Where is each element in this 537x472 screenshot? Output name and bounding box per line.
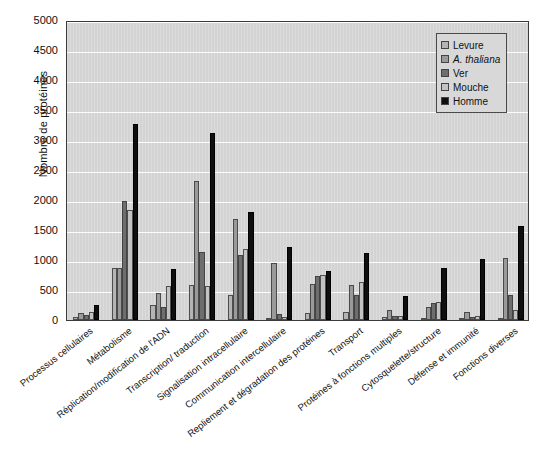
x-tick-label-text: Communication intercellulaire — [183, 325, 288, 410]
chart-figure: Nombre de protéines 05001000150020002500… — [0, 0, 537, 472]
y-tick-label: 500 — [0, 284, 58, 296]
legend-item-label: A. thaliana — [453, 54, 500, 65]
x-tick-label-text: Signalisation intracellulaire — [154, 325, 249, 403]
x-tick-label-text: Transcription/ traduction — [124, 325, 211, 396]
y-tick-label: 2000 — [0, 194, 58, 206]
bar — [364, 253, 369, 320]
legend-item-label: Homme — [453, 96, 488, 107]
y-tick-label: 1500 — [0, 224, 58, 236]
y-tick-label: 2500 — [0, 164, 58, 176]
bar — [171, 269, 176, 320]
bar — [326, 271, 331, 320]
bar — [287, 247, 292, 321]
legend-item-label: Levure — [453, 40, 484, 51]
y-axis-tick-labels: 0500100015002000250030003500400045005000 — [0, 0, 62, 472]
y-tick-label: 4000 — [0, 74, 58, 86]
y-tick-label: 3500 — [0, 104, 58, 116]
x-tick-label-text: Protéines à fonctions multiples — [295, 325, 403, 413]
legend-item: Mouche — [441, 80, 500, 94]
legend-item: Levure — [441, 38, 500, 52]
bar-cluster — [183, 22, 222, 320]
y-tick-label: 3000 — [0, 134, 58, 146]
legend-item: A. thaliana — [441, 52, 500, 66]
legend-swatch-icon — [441, 69, 449, 77]
chart-legend: LevureA. thalianaVerMoucheHomme — [436, 33, 507, 113]
legend-swatch-icon — [441, 41, 449, 49]
bar-cluster — [144, 22, 183, 320]
bar — [441, 268, 446, 321]
bar-cluster — [67, 22, 106, 320]
bar-cluster — [260, 22, 299, 320]
legend-swatch-icon — [441, 97, 449, 105]
y-tick-label: 0 — [0, 314, 58, 326]
bar-cluster — [337, 22, 376, 320]
bar-cluster — [106, 22, 145, 320]
y-tick-label: 4500 — [0, 44, 58, 56]
x-tick-label-text: Fonctions diverses — [450, 325, 519, 382]
legend-swatch-icon — [441, 55, 449, 63]
legend-item-label: Ver — [453, 68, 468, 79]
bar — [133, 124, 138, 320]
x-tick-label-text: Repliement et dégradation des protéines — [185, 325, 327, 439]
legend-item-label: Mouche — [453, 82, 489, 93]
bar — [403, 296, 408, 320]
legend-item: Ver — [441, 66, 500, 80]
bar — [271, 263, 276, 320]
bar — [518, 226, 523, 320]
legend-item: Homme — [441, 94, 500, 108]
x-tick-label-text: Réplication/modification de l'ADN — [55, 325, 172, 420]
x-tick-label-text: Cytosquelette/structure — [359, 325, 443, 394]
bar — [248, 212, 253, 320]
y-tick-label: 1000 — [0, 254, 58, 266]
bar — [480, 259, 485, 320]
bar — [94, 305, 99, 320]
x-tick-label-text: Métabolisme — [84, 325, 133, 367]
x-tick-label-text: Transport — [327, 325, 366, 358]
bar — [210, 133, 215, 320]
legend-swatch-icon — [441, 83, 449, 91]
x-tick-label-text: Défense et immunité — [405, 325, 480, 387]
bar-cluster — [221, 22, 260, 320]
bar-cluster — [376, 22, 415, 320]
y-tick-label: 5000 — [0, 14, 58, 26]
bar-cluster — [299, 22, 338, 320]
